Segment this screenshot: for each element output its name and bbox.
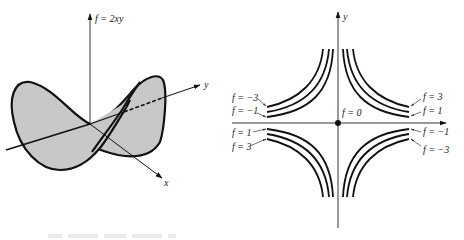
level-label-q3-inner: f = 1 (232, 127, 252, 138)
saddle-and-level-curves-figure: f = 2xy y x y f = 0 (0, 0, 464, 240)
level-label-q3-outer: f = 3 (232, 141, 252, 152)
level-label-q4-inner: f = −1 (423, 126, 449, 137)
level-label-q1-outer: f = 3 (423, 91, 443, 102)
level-label-q2-outer: f = −3 (232, 92, 258, 103)
origin-point (335, 120, 341, 126)
saddle-surface-plot: f = 2xy y x (6, 13, 209, 188)
f-axis-label: f = 2xy (95, 13, 124, 24)
level-label-q2-inner: f = −1 (232, 105, 258, 116)
saddle-front-lobe (12, 82, 130, 170)
origin-level-label: f = 0 (342, 107, 362, 118)
y-axis-2d-label: y (342, 11, 348, 22)
x-axis-3d-label: x (163, 177, 169, 188)
level-curves-plot: y f = 0 f = −3 f = −1 f = 1 f = 3 (232, 11, 449, 228)
level-label-q4-outer: f = −3 (423, 144, 449, 155)
y-axis-3d-label: y (203, 79, 209, 90)
level-label-q1-inner: f = 1 (423, 105, 443, 116)
cropped-caption (48, 226, 198, 236)
